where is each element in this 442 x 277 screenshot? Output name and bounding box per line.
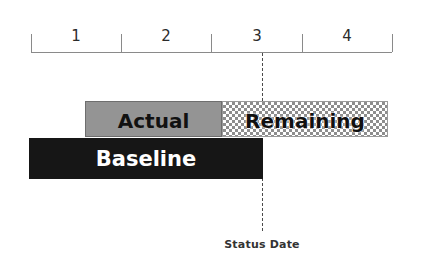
bar-actual: Actual: [85, 101, 222, 137]
status-date-label: Status Date: [182, 238, 342, 251]
bar-actual-label: Actual: [86, 111, 221, 131]
axis-tick-3: [302, 34, 303, 52]
bar-remaining-label: Remaining: [223, 111, 387, 131]
timeline-axis-line: [31, 52, 392, 53]
bar-baseline: Baseline: [29, 138, 263, 179]
axis-label-1: 1: [56, 27, 96, 45]
axis-tick-2: [211, 34, 212, 52]
axis-tick-1: [121, 34, 122, 52]
axis-label-4: 4: [327, 27, 367, 45]
axis-tick-4: [392, 34, 393, 52]
bar-baseline-label: Baseline: [29, 149, 263, 170]
axis-label-3: 3: [237, 27, 277, 45]
bar-remaining: Remaining: [222, 101, 388, 137]
axis-label-2: 2: [146, 27, 186, 45]
axis-tick-0: [31, 34, 32, 52]
gantt-chart: 1 2 3 4 Status Date Remaining Actual Bas…: [0, 0, 442, 277]
